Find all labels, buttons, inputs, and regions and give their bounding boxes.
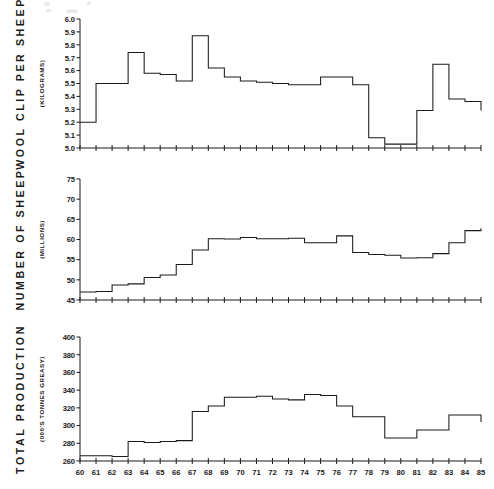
x-tick-label: 80: [397, 468, 405, 477]
scan-artifact: [44, 2, 50, 6]
x-tick-label: 66: [172, 468, 180, 477]
x-tick-label: 83: [445, 468, 453, 477]
wool-statistics-figure: 6.05.95.85.75.65.55.45.35.25.15.0WOOL CL…: [0, 0, 494, 489]
x-tick-label: 85: [477, 468, 486, 477]
x-tick-label: 81: [413, 468, 422, 477]
y-tick-label: 320: [63, 404, 75, 413]
y-tick-label: 340: [63, 386, 75, 395]
y-tick-label: 260: [63, 457, 75, 466]
chart-wool-clip-per-sheep: 6.05.95.85.75.65.55.45.35.25.15.0WOOL CL…: [14, 0, 481, 170]
y-tick-label: 5.1: [65, 131, 76, 140]
y-tick-label: 60: [67, 235, 75, 244]
scan-artifact: [87, 1, 91, 5]
y-axis-title: TOTAL PRODUCTION: [14, 324, 26, 474]
chart-total-production: 4003803603403203002802606061626364656667…: [14, 324, 486, 477]
x-tick-label: 60: [76, 468, 84, 477]
step-line-wool-clip-per-sheep: [80, 36, 481, 144]
y-tick-label: 300: [63, 421, 75, 430]
x-tick-label: 61: [92, 468, 101, 477]
y-tick-label: 5.2: [65, 118, 75, 127]
x-tick-label: 68: [204, 468, 212, 477]
x-tick-label: 69: [220, 468, 228, 477]
x-tick-label: 75: [316, 468, 325, 477]
y-tick-label: 6.0: [65, 15, 75, 24]
x-tick-label: 63: [124, 468, 132, 477]
y-tick-label: 5.7: [65, 54, 75, 63]
y-tick-label: 55: [67, 255, 76, 264]
x-tick-label: 76: [332, 468, 340, 477]
x-tick-label: 82: [429, 468, 437, 477]
y-tick-label: 70: [67, 195, 75, 204]
y-tick-label: 400: [63, 333, 75, 342]
y-axis-title: NUMBER OF SHEEP: [14, 168, 26, 310]
y-tick-label: 5.3: [65, 105, 75, 114]
y-tick-label: 5.6: [65, 66, 75, 75]
charts-svg: 6.05.95.85.75.65.55.45.35.25.15.0WOOL CL…: [0, 0, 494, 489]
step-line-number-of-sheep: [80, 228, 481, 292]
y-tick-label: 50: [67, 276, 75, 285]
y-tick-label: 5.8: [65, 41, 75, 50]
step-line-total-production: [80, 395, 481, 457]
y-tick-label: 5.5: [65, 79, 76, 88]
scan-artifact: [46, 9, 51, 12]
x-tick-label: 84: [461, 468, 470, 477]
x-tick-label: 79: [381, 468, 389, 477]
y-tick-label: 75: [67, 175, 76, 184]
x-tick-label: 74: [300, 468, 309, 477]
y-tick-label: 45: [67, 296, 76, 305]
y-tick-label: 5.4: [65, 92, 76, 101]
y-tick-label: 5.9: [65, 28, 75, 37]
y-tick-label: 280: [63, 439, 75, 448]
y-tick-label: 65: [67, 215, 76, 224]
y-axis-units: (KILOGRAMS): [38, 60, 45, 107]
y-tick-label: 360: [63, 368, 75, 377]
y-axis-units: (000'S TONNES GREASY): [38, 356, 45, 442]
x-tick-label: 64: [140, 468, 149, 477]
y-axis-units: (MILLIONS): [38, 220, 45, 259]
x-tick-label: 67: [188, 468, 196, 477]
y-tick-label: 380: [63, 351, 75, 360]
x-tick-label: 71: [252, 468, 261, 477]
x-tick-label: 72: [268, 468, 276, 477]
y-tick-label: 5.0: [65, 144, 75, 153]
x-tick-label: 70: [236, 468, 244, 477]
x-tick-label: 65: [156, 468, 165, 477]
scan-artifact: [66, 9, 78, 13]
y-axis-title: WOOL CLIP PER SHEEP: [14, 0, 26, 170]
x-tick-label: 77: [348, 468, 356, 477]
x-tick-label: 73: [284, 468, 292, 477]
x-tick-label: 62: [108, 468, 116, 477]
x-tick-label: 78: [364, 468, 372, 477]
chart-number-of-sheep: 75706560555045NUMBER OF SHEEP(MILLIONS): [14, 168, 481, 310]
